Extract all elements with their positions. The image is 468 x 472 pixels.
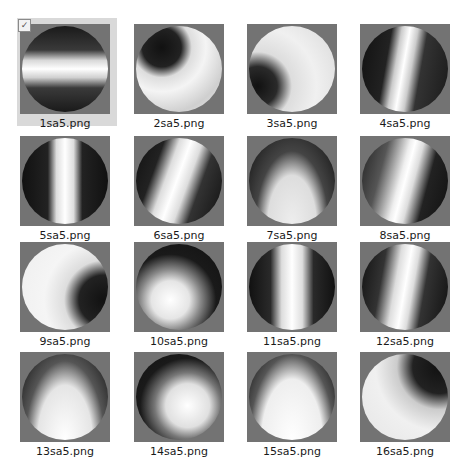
file-item[interactable]: ✓1sa5.png [17,18,117,126]
file-item[interactable]: 14sa5.png [131,346,231,454]
image-content [22,244,108,330]
image-thumbnail [134,352,224,442]
file-item[interactable]: 3sa5.png [244,18,344,126]
selection-checkbox[interactable]: ✓ [18,19,31,32]
file-item[interactable]: 15sa5.png [244,346,344,454]
image-thumbnail [20,242,110,332]
image-content [22,26,108,112]
image-thumbnail [247,24,337,114]
file-item[interactable]: 12sa5.png [357,236,457,344]
image-thumbnail [360,136,450,226]
image-content [362,244,448,330]
image-thumbnail [247,352,337,442]
file-item[interactable]: 9sa5.png [17,236,117,344]
image-content [249,138,335,224]
file-name-label: 16sa5.png [357,445,453,458]
image-content [362,26,448,112]
image-thumbnail [360,352,450,442]
image-thumbnail [247,242,337,332]
file-name-label: 13sa5.png [17,445,113,458]
image-thumbnail [134,136,224,226]
file-item[interactable]: 13sa5.png [17,346,117,454]
image-thumbnail [134,24,224,114]
file-name-label: 1sa5.png [17,117,113,130]
file-item[interactable]: 2sa5.png [131,18,231,126]
image-content [136,138,222,224]
image-thumbnail [20,352,110,442]
image-thumbnail [247,136,337,226]
image-content [249,26,335,112]
file-name-label: 2sa5.png [131,117,227,130]
image-thumbnail [20,24,110,114]
file-item[interactable]: 11sa5.png [244,236,344,344]
image-content [249,354,335,440]
image-content [136,26,222,112]
file-item[interactable]: 8sa5.png [357,130,457,238]
file-name-label: 15sa5.png [244,445,340,458]
image-thumbnail [360,24,450,114]
file-item[interactable]: 7sa5.png [244,130,344,238]
image-thumbnail [20,136,110,226]
image-content [136,354,222,440]
image-content [249,244,335,330]
image-content [22,138,108,224]
file-name-label: 14sa5.png [131,445,227,458]
file-name-label: 4sa5.png [357,117,453,130]
file-item[interactable]: 4sa5.png [357,18,457,126]
image-content [362,138,448,224]
file-item[interactable]: 5sa5.png [17,130,117,238]
image-thumbnail [360,242,450,332]
file-item[interactable]: 10sa5.png [131,236,231,344]
file-item[interactable]: 16sa5.png [357,346,457,454]
file-item[interactable]: 6sa5.png [131,130,231,238]
image-content [362,354,448,440]
file-name-label: 3sa5.png [244,117,340,130]
image-content [136,244,222,330]
thumbnail-grid: ✓1sa5.png2sa5.png3sa5.png4sa5.png5sa5.pn… [0,0,468,472]
image-thumbnail [134,242,224,332]
image-content [22,354,108,440]
